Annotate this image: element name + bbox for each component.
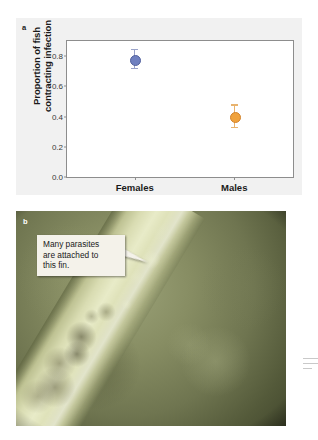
caption-line <box>303 358 318 359</box>
data-marker-males <box>230 112 241 123</box>
x-tick-mark-females <box>135 177 136 180</box>
panel-label-b: b <box>23 218 28 226</box>
callout-box: Many parasites are attached to this fin. <box>37 235 125 276</box>
y-tick-label-4: 0.8 <box>52 52 63 61</box>
error-bar-cap-upper-females <box>131 49 138 50</box>
callout-line-2: are attached to <box>43 250 120 261</box>
panel-b-photograph: b Many parasites are attached to this fi… <box>16 211 286 426</box>
plot-area: 0.0 0.2 0.4 0.6 0.8 Females Males <box>67 41 293 177</box>
error-bar-cap-lower-females <box>131 68 138 69</box>
x-tick-mark-males <box>234 177 235 180</box>
callout-line-1: Many parasites <box>43 239 120 250</box>
y-tick-mark-1 <box>64 146 67 147</box>
y-axis-title: Proportion of fish contracting infection <box>31 5 55 127</box>
y-tick-mark-0 <box>64 177 67 178</box>
y-tick-label-1: 0.2 <box>52 142 63 151</box>
error-bar-cap-lower-males <box>231 127 238 128</box>
y-tick-label-0: 0.0 <box>52 173 63 182</box>
x-tick-label-males: Males <box>221 182 247 193</box>
caption-cropped-edge <box>303 358 318 398</box>
y-axis-title-line-1: Proportion of fish <box>31 5 42 127</box>
panel-a-chart: a Proportion of fish contracting infecti… <box>16 18 302 195</box>
y-axis-title-line-2: contracting infection <box>42 5 53 127</box>
data-marker-females <box>130 55 141 66</box>
y-tick-label-3: 0.6 <box>52 82 63 91</box>
caption-line <box>303 363 318 364</box>
y-tick-mark-4 <box>64 56 67 57</box>
panel-label-a: a <box>22 24 26 32</box>
plot-frame: 0.0 0.2 0.4 0.6 0.8 Females Males <box>66 40 294 178</box>
callout-line-3: this fin. <box>43 260 120 271</box>
caption-line <box>303 368 312 369</box>
x-tick-label-females: Females <box>116 182 154 193</box>
y-tick-mark-2 <box>64 116 67 117</box>
y-tick-label-2: 0.4 <box>52 112 63 121</box>
error-bar-cap-upper-males <box>231 104 238 105</box>
y-tick-mark-3 <box>64 86 67 87</box>
